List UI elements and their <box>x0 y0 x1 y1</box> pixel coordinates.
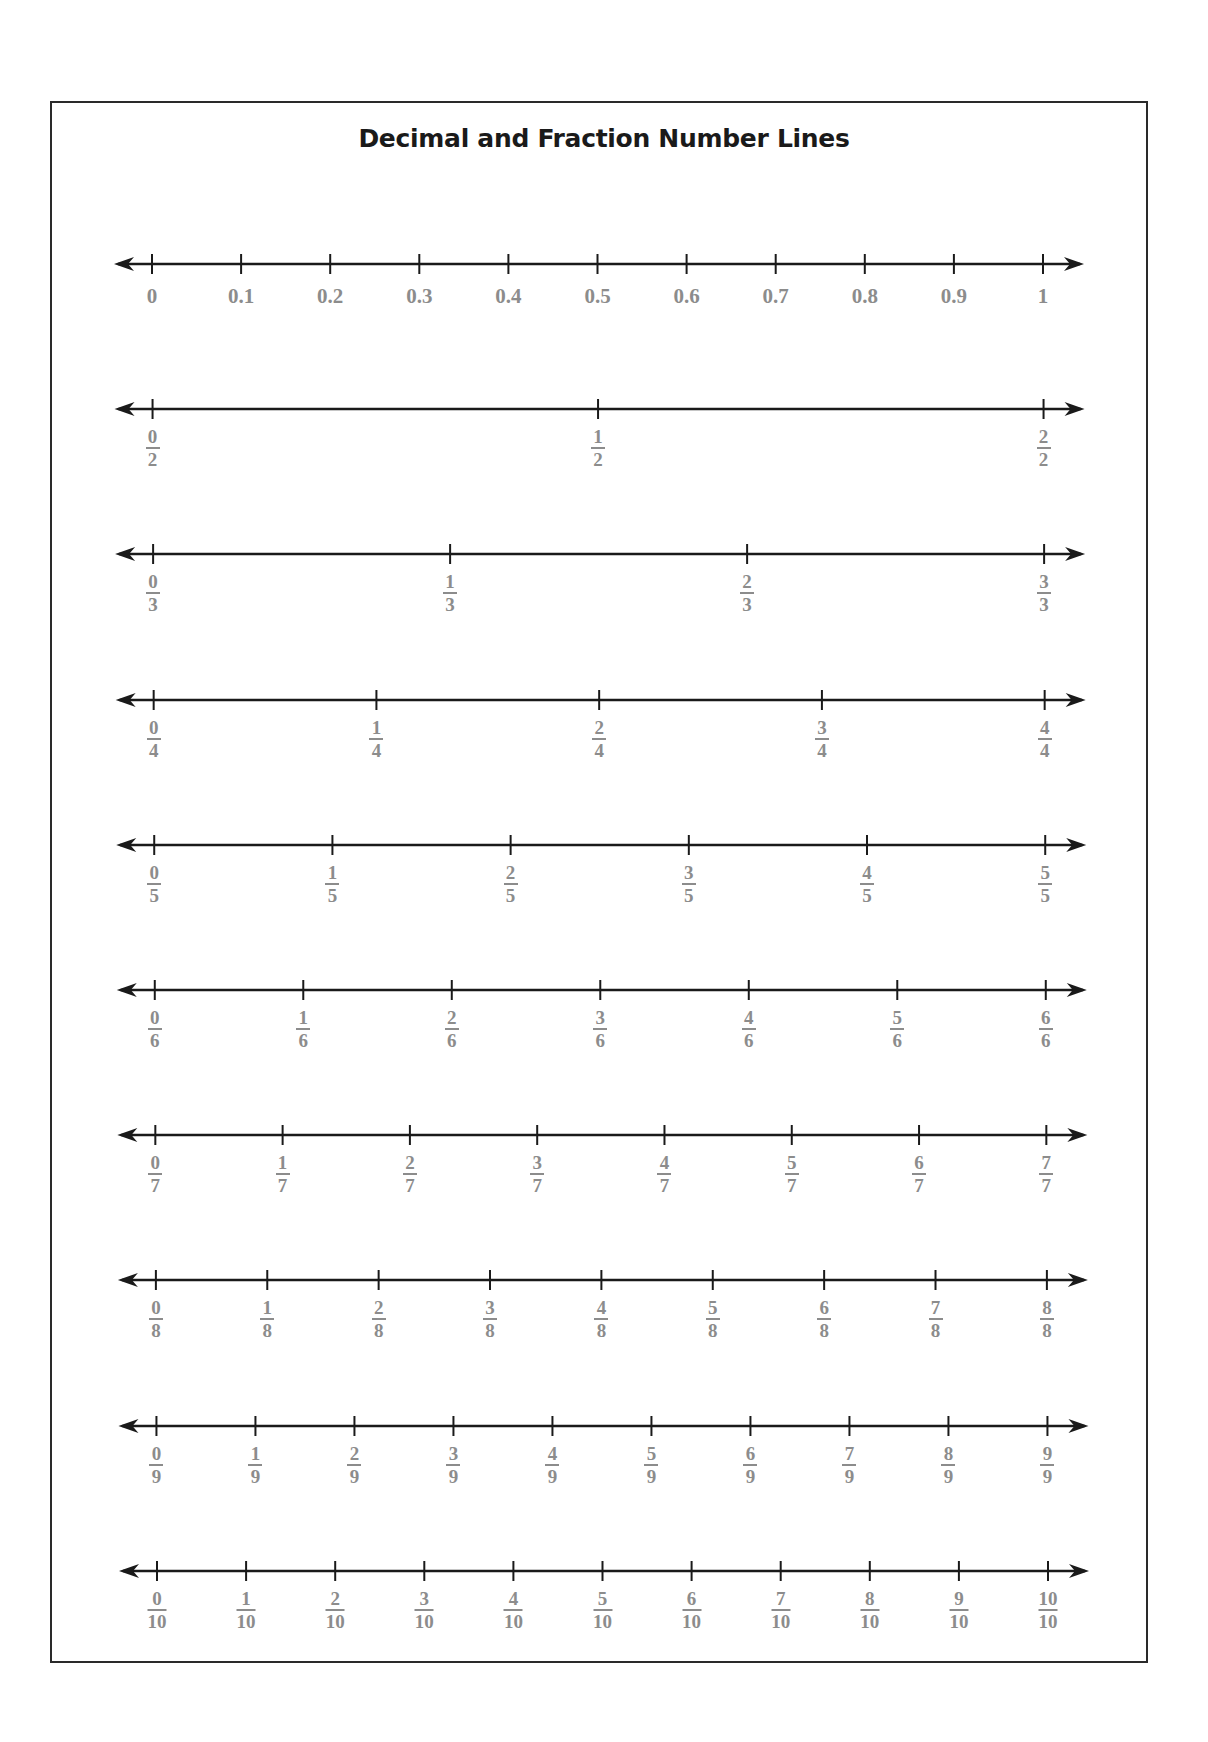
numerator: 8 <box>865 1589 875 1608</box>
numerator: 0 <box>152 1444 162 1463</box>
fraction-label: 1010 <box>1039 1589 1058 1631</box>
denominator: 9 <box>746 1467 756 1486</box>
denominator: 7 <box>151 1176 161 1195</box>
fraction-label: 88 <box>1040 1298 1054 1340</box>
denominator: 2 <box>593 450 603 469</box>
tick-label: 0.3 <box>406 286 432 307</box>
denominator: 5 <box>328 886 338 905</box>
fraction-label: 18 <box>260 1298 274 1340</box>
numerator: 2 <box>350 1444 360 1463</box>
numerator: 4 <box>862 863 872 882</box>
fraction-label: 37 <box>530 1153 544 1195</box>
denominator: 5 <box>684 886 694 905</box>
denominator: 2 <box>148 450 158 469</box>
denominator: 2 <box>1039 450 1049 469</box>
fraction-label: 13 <box>443 572 457 614</box>
number-line-fraction-8: 081828384858687888 <box>0 1280 1208 1390</box>
denominator: 8 <box>708 1321 718 1340</box>
fraction-label: 59 <box>644 1444 658 1486</box>
tick-label: 0.6 <box>673 286 699 307</box>
number-line-fraction-7: 0717273747576777 <box>0 1135 1208 1245</box>
denominator: 6 <box>744 1031 754 1050</box>
fraction-label: 05 <box>147 863 161 905</box>
fraction-label: 22 <box>1037 427 1051 469</box>
numerator: 1 <box>445 572 455 591</box>
denominator: 4 <box>594 741 604 760</box>
denominator: 6 <box>447 1031 457 1050</box>
fraction-label: 56 <box>890 1008 904 1050</box>
tick-label: 0 <box>147 286 158 307</box>
numerator: 8 <box>1042 1298 1052 1317</box>
fraction-label: 44 <box>1038 718 1052 760</box>
numerator: 3 <box>420 1589 430 1608</box>
denominator: 10 <box>237 1612 256 1631</box>
fraction-label: 66 <box>1039 1008 1053 1050</box>
numerator: 4 <box>509 1589 519 1608</box>
denominator: 6 <box>1041 1031 1051 1050</box>
fraction-label: 26 <box>445 1008 459 1050</box>
denominator: 4 <box>817 741 827 760</box>
numerator: 7 <box>776 1589 786 1608</box>
numerator: 5 <box>708 1298 718 1317</box>
fraction-label: 57 <box>785 1153 799 1195</box>
denominator: 3 <box>148 595 158 614</box>
numerator: 6 <box>1041 1008 1051 1027</box>
tick-label: 0.4 <box>495 286 521 307</box>
numerator: 1 <box>278 1153 288 1172</box>
denominator: 10 <box>771 1612 790 1631</box>
fraction-label: 23 <box>740 572 754 614</box>
fraction-label: 010 <box>148 1589 167 1631</box>
fraction-label: 49 <box>545 1444 559 1486</box>
denominator: 10 <box>1039 1612 1058 1631</box>
numerator: 2 <box>742 572 752 591</box>
fraction-label: 08 <box>149 1298 163 1340</box>
fraction-label: 110 <box>237 1589 256 1631</box>
number-line-fraction-2: 021222 <box>0 409 1208 519</box>
fraction-label: 710 <box>771 1589 790 1631</box>
denominator: 9 <box>251 1467 261 1486</box>
numerator: 2 <box>1039 427 1049 446</box>
denominator: 8 <box>819 1321 829 1340</box>
numerator: 3 <box>485 1298 495 1317</box>
numerator: 8 <box>944 1444 954 1463</box>
fraction-label: 39 <box>446 1444 460 1486</box>
denominator: 8 <box>151 1321 161 1340</box>
fraction-label: 15 <box>325 863 339 905</box>
fraction-label: 09 <box>149 1444 163 1486</box>
fraction-label: 25 <box>504 863 518 905</box>
page-title: Decimal and Fraction Number Lines <box>0 124 1208 153</box>
denominator: 8 <box>263 1321 273 1340</box>
fraction-label: 810 <box>860 1589 879 1631</box>
denominator: 5 <box>506 886 516 905</box>
numerator: 0 <box>149 863 159 882</box>
fraction-label: 04 <box>147 718 161 760</box>
fraction-label: 89 <box>941 1444 955 1486</box>
fraction-label: 28 <box>372 1298 386 1340</box>
fraction-label: 16 <box>296 1008 310 1050</box>
numerator: 10 <box>1039 1589 1058 1608</box>
fraction-label: 03 <box>146 572 160 614</box>
numerator: 6 <box>746 1444 756 1463</box>
denominator: 5 <box>1040 886 1050 905</box>
denominator: 7 <box>787 1176 797 1195</box>
fraction-label: 35 <box>682 863 696 905</box>
fraction-label: 48 <box>594 1298 608 1340</box>
numerator: 1 <box>241 1589 251 1608</box>
fraction-label: 29 <box>347 1444 361 1486</box>
fraction-label: 210 <box>326 1589 345 1631</box>
fraction-label: 310 <box>415 1589 434 1631</box>
denominator: 6 <box>299 1031 309 1050</box>
number-line-decimal: 00.10.20.30.40.50.60.70.80.91 <box>0 264 1208 374</box>
denominator: 7 <box>1042 1176 1052 1195</box>
number-line-axis <box>0 1561 1208 1581</box>
denominator: 8 <box>1042 1321 1052 1340</box>
fraction-label: 34 <box>815 718 829 760</box>
numerator: 5 <box>598 1589 608 1608</box>
tick-label: 0.1 <box>228 286 254 307</box>
fraction-label: 67 <box>912 1153 926 1195</box>
fraction-label: 910 <box>949 1589 968 1631</box>
numerator: 4 <box>548 1444 558 1463</box>
fraction-label: 24 <box>592 718 606 760</box>
numerator: 1 <box>328 863 338 882</box>
fraction-label: 510 <box>593 1589 612 1631</box>
